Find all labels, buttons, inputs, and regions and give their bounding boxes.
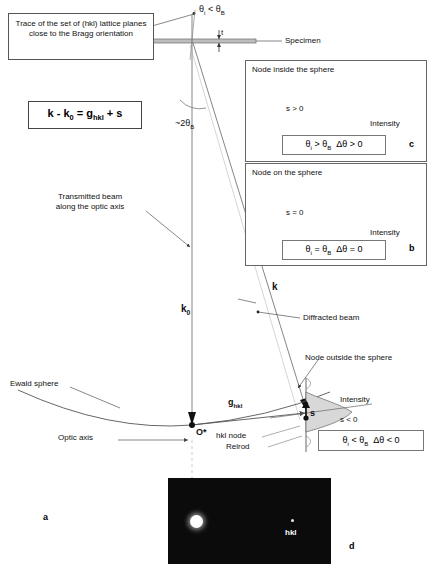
- inset-b-title: Node on the sphere: [252, 168, 322, 178]
- sphere-intersection-point: [304, 402, 308, 406]
- optic-axis-label: Optic axis: [58, 433, 93, 443]
- relrod-label: Relrod: [226, 442, 250, 452]
- leader-hkl-node: [262, 426, 300, 437]
- leader-diffracted-beam-2: [238, 299, 256, 303]
- diffraction-pattern-image: hkl: [168, 478, 331, 564]
- figure-canvas: Trace of the set of (hkl) lattice planes…: [0, 0, 429, 578]
- hkl-node-point: [303, 415, 308, 420]
- origin-label: O*: [196, 427, 207, 438]
- inset-b-condition-box: θi = θB Δθ = 0: [282, 240, 386, 260]
- two-theta-label: ~2θB: [175, 118, 194, 130]
- inset-b-s-label: s = 0: [286, 208, 304, 218]
- theta-incident-label: θi < θB: [199, 4, 225, 16]
- specimen-slab: [148, 39, 256, 43]
- panel-label-d: d: [349, 541, 355, 551]
- main-condition-box: θi < θB Δθ < 0: [318, 430, 424, 451]
- two-theta-arc: [180, 100, 206, 109]
- inset-c-condition-box: θi > θB Δθ > 0: [282, 135, 386, 155]
- leader-node-outside: [298, 360, 318, 388]
- hkl-diffraction-spot: [291, 519, 294, 522]
- inset-c-title: Node inside the sphere: [252, 65, 334, 75]
- leader-relrod: [268, 436, 302, 447]
- specimen-label: Specimen: [285, 36, 321, 46]
- inset-c-condition-text: θi > θB Δθ > 0: [306, 139, 363, 151]
- k-vector-label: k: [272, 281, 278, 294]
- diffracted-beam-label: Diffracted beam: [303, 313, 359, 323]
- transmitted-beam-label: Transmitted beamalong the optic axis: [30, 192, 150, 212]
- origin-point-O: [189, 422, 195, 428]
- trace-planes-box: Trace of the set of (hkl) lattice planes…: [8, 13, 154, 60]
- intensity-label-main: Intensity: [340, 395, 370, 405]
- leader-transmitted-beam: [146, 211, 190, 247]
- ewald-sphere-label: Ewald sphere: [10, 379, 58, 389]
- ewald-sphere-arc: [18, 390, 330, 426]
- node-outside-label: Node outside the sphere: [305, 353, 392, 363]
- incident-ray-stub: [190, 10, 195, 60]
- inset-b-panel-label: b: [409, 243, 415, 253]
- equation-box: k - k0 = ghkl + s: [28, 101, 142, 129]
- panel-label-a: a: [43, 512, 48, 522]
- relrod-lobe-lower: [306, 436, 311, 447]
- g-vector-line: [192, 413, 305, 425]
- inset-c-panel-label: c: [409, 139, 414, 149]
- inset-c-box: Node inside the sphere s > 0 Intensity θ…: [245, 60, 427, 162]
- inset-b-condition-text: θi = θB Δθ = 0: [306, 244, 363, 256]
- s-negative-label: s < 0: [340, 415, 358, 425]
- k0-vector-label: k0: [181, 303, 190, 317]
- leader-dot-diffracted: [257, 311, 260, 314]
- g-vector-label: ghkl: [228, 397, 242, 409]
- leader-ewald-sphere: [70, 387, 120, 408]
- s-vector-label: s: [310, 408, 315, 419]
- hkl-spot-label: hkl: [285, 528, 297, 537]
- main-condition-text: θi < θB Δθ < 0: [343, 435, 400, 447]
- equation-text: k - k0 = ghkl + s: [48, 107, 123, 122]
- inset-c-intensity-label: Intensity: [370, 119, 400, 129]
- relrod-lobe-upper: [306, 378, 311, 389]
- transmitted-beam-spot: [190, 515, 203, 528]
- hkl-node-label: hkl node: [216, 431, 246, 441]
- inset-c-s-label: s > 0: [286, 104, 304, 114]
- leader-diffracted-beam: [258, 312, 300, 318]
- leader-trace-box: [152, 14, 194, 26]
- inset-b-box: Node on the sphere s = 0 Intensity θi = …: [245, 163, 427, 266]
- thickness-label: t: [221, 28, 223, 38]
- trace-planes-text: Trace of the set of (hkl) lattice planes…: [9, 19, 153, 39]
- inset-b-intensity-label: Intensity: [370, 228, 400, 238]
